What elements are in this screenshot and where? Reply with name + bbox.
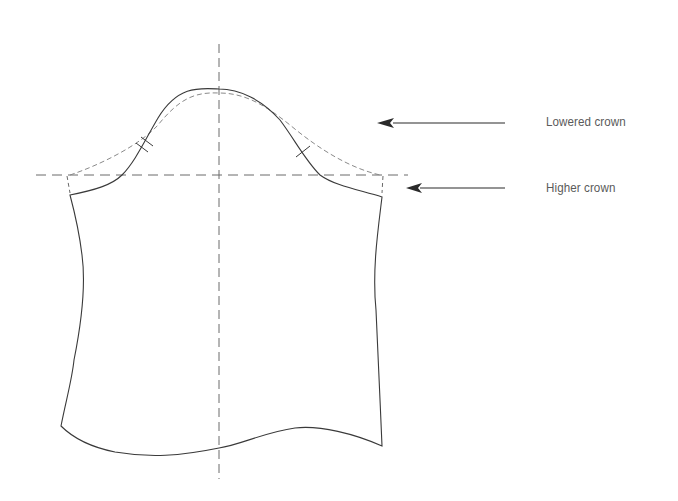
sleeve-pattern-diagram xyxy=(0,0,678,501)
sleeve-outline xyxy=(61,88,382,455)
lowered-crown-label: Lowered crown xyxy=(546,114,626,129)
lowered-crown-arrow-icon xyxy=(377,118,505,128)
right-underarm-extension xyxy=(382,176,383,193)
back-double-notch-icon xyxy=(136,137,153,152)
higher-crown-label: Higher crown xyxy=(546,180,615,195)
lowered-crown-curve xyxy=(70,93,380,175)
front-single-notch-icon xyxy=(296,146,310,157)
left-underarm-extension xyxy=(67,176,70,193)
higher-crown-arrow-icon xyxy=(406,183,505,193)
